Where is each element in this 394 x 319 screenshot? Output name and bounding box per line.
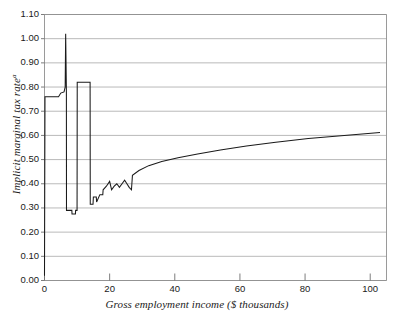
chart-container: Implicit marginal tax ratea Gross employ… [0,0,394,319]
y-tick-label: 0.60 [5,130,39,140]
plot-frame [45,15,387,281]
y-tick-label: 0.90 [5,57,39,67]
series-line [45,34,380,276]
gridlines-group [45,15,387,281]
y-tick-label: 0.30 [5,202,39,212]
y-tick-label: 0.80 [5,82,39,92]
y-tick-label: 0.20 [5,227,39,237]
x-tick-marks-group [45,274,371,281]
x-tick-label: 40 [155,284,195,294]
y-tick-label: 0.40 [5,178,39,188]
data-series-group [45,34,380,276]
y-tick-label: 1.10 [5,9,39,19]
chart-plot-svg [0,0,394,319]
x-tick-label: 100 [350,284,390,294]
y-tick-label: 0.10 [5,251,39,261]
x-tick-label: 0 [25,284,65,294]
y-tick-marks-group [41,15,45,281]
x-tick-label: 80 [285,284,325,294]
y-tick-label: 1.00 [5,33,39,43]
x-tick-label: 60 [220,284,260,294]
y-tick-label: 0.50 [5,154,39,164]
x-tick-label: 20 [90,284,130,294]
y-tick-label: 0.70 [5,106,39,116]
